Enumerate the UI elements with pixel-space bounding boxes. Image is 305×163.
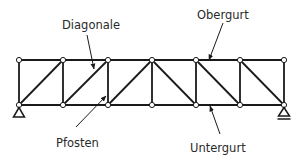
diagonale-arrow: [87, 35, 94, 69]
untergurt-arrow: [210, 106, 220, 134]
leader-arrows: [76, 23, 223, 134]
label-diagonale: Diagonale: [62, 20, 120, 32]
label-pfosten: Pfosten: [56, 138, 99, 150]
pfosten-arrow: [76, 96, 106, 127]
label-obergurt: Obergurt: [197, 10, 249, 22]
posts: [19, 60, 284, 105]
pinned-support-icon: [14, 108, 25, 118]
truss-diagram: Diagonale Obergurt Pfosten Untergurt: [0, 0, 305, 163]
label-untergurt: Untergurt: [190, 143, 246, 155]
truss-drawing: [0, 0, 305, 163]
roller-support-icon: [278, 108, 291, 120]
obergurt-arrow: [209, 23, 223, 60]
